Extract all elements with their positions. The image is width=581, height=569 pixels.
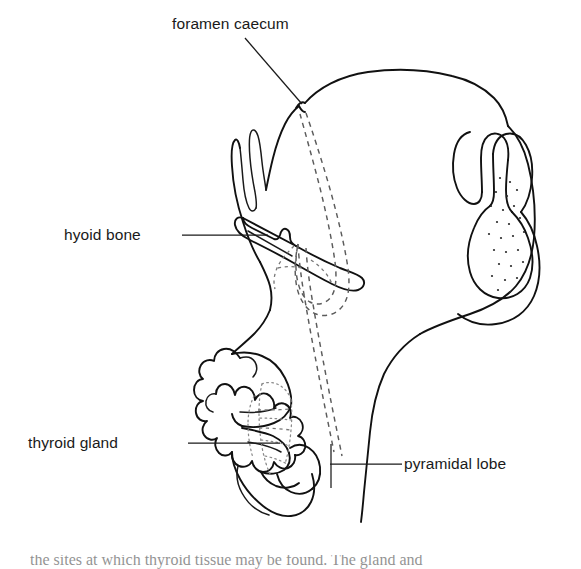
label-hyoid-bone: hyoid bone xyxy=(64,226,141,243)
thyroid-cartilage xyxy=(232,353,291,427)
foramen-caecum-leader xyxy=(245,38,302,104)
hyoid-bone xyxy=(235,217,364,290)
thyroglossal-duct-tract xyxy=(295,113,349,456)
foramen-caecum-notch xyxy=(296,102,305,112)
label-pyramidal-lobe: pyramidal lobe xyxy=(404,455,506,472)
thyroglossal-duct-diagram: foramen caecum hyoid bone thyroid gland … xyxy=(0,0,581,569)
label-foramen-caecum: foramen caecum xyxy=(172,15,289,32)
label-thyroid-gland: thyroid gland xyxy=(28,434,118,451)
figure-caption-text: the sites at which thyroid tissue may be… xyxy=(30,555,423,569)
figure-caption-clipped: the sites at which thyroid tissue may be… xyxy=(0,555,581,569)
thyroid-gland-lobe xyxy=(194,349,314,516)
anatomical-figure: foramen caecum hyoid bone thyroid gland … xyxy=(0,0,581,569)
